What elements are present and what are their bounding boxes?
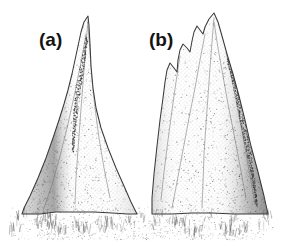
panel-label-b: (b) bbox=[149, 30, 173, 49]
mound-a-shading bbox=[17, 16, 141, 215]
panel-label-a: (a) bbox=[39, 30, 62, 49]
termite-mound-figure: (a) (b) bbox=[0, 0, 285, 249]
mound-a-group bbox=[17, 16, 141, 215]
